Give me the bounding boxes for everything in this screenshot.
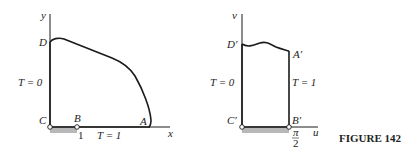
point-a-prime-label: A′ xyxy=(292,48,303,60)
left-panel: y x D C B A 1 T = 0 T = 1 xyxy=(18,9,173,141)
boundary-curve-d-a-prime xyxy=(242,42,289,51)
point-d-label: D xyxy=(38,36,47,48)
boundary-label-left: T = 0 xyxy=(18,76,43,88)
point-b-prime-label: B′ xyxy=(292,114,302,126)
shaded-segment-cb xyxy=(50,128,77,133)
shaded-segment-c-b-prime xyxy=(242,128,289,133)
figure-142: y x D C B A 1 T = 0 T = 1 v u D′ A′ C′ B… xyxy=(0,0,408,155)
v-axis-label: v xyxy=(232,9,237,21)
u-axis-label: u xyxy=(313,126,319,138)
x-axis-label: x xyxy=(167,127,173,139)
point-a-label: A xyxy=(139,115,147,127)
right-panel: v u D′ A′ C′ B′ π 2 T = 0 T = 1 xyxy=(210,9,319,149)
boundary-label-bottom: T = 1 xyxy=(97,129,121,141)
boundary-label-left-prime: T = 0 xyxy=(210,76,235,88)
figure-caption: FIGURE 142 xyxy=(339,132,402,144)
boundary-label-right-prime: T = 1 xyxy=(292,76,316,88)
tick-label-1: 1 xyxy=(78,129,84,141)
point-d-prime-label: D′ xyxy=(226,38,238,50)
y-axis-label: y xyxy=(40,9,46,21)
boundary-curve-da xyxy=(50,38,151,127)
point-c-label: C xyxy=(39,114,47,126)
point-c-prime-label: C′ xyxy=(227,114,237,126)
point-b-prime-marker xyxy=(287,125,292,130)
point-c-marker xyxy=(48,125,53,130)
tick-label-2: 2 xyxy=(293,137,299,149)
point-c-prime-marker xyxy=(240,125,245,130)
point-b-label: B xyxy=(74,112,81,124)
